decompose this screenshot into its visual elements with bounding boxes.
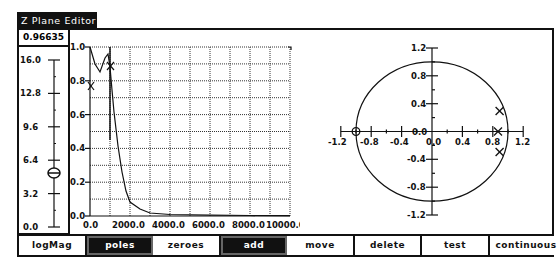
y-tick-label: 1.0 xyxy=(70,42,85,52)
z-x-tick-label: 0.4 xyxy=(455,137,470,147)
x-tick-label: 10000.0 xyxy=(266,220,300,230)
z-x-tick-label: 0.8 xyxy=(485,137,500,147)
y-tick-label: 0.2 xyxy=(70,177,85,187)
grid-lines xyxy=(90,47,290,216)
toolbar: logMag poles zeroes add move delete test… xyxy=(17,234,554,257)
y-tick-label: 0.8 xyxy=(70,76,85,86)
slider-tick-label: 6.4 xyxy=(23,155,38,165)
z-y-tick-label: 0.8 xyxy=(411,71,426,81)
z-plane-plot[interactable]: 1.2 0.8 0.4 0.0 -0.4 -0.8 -1.2 -1.2 -0.8… xyxy=(300,30,552,234)
slider-tick-label: 12.8 xyxy=(20,88,41,98)
magnitude-plot[interactable]: 1.0 0.8 0.6 0.4 0.2 0.0 0.0 2000.0 4000.… xyxy=(70,30,300,234)
z-y-tick-label: -1.2 xyxy=(407,210,426,220)
poles-button[interactable]: poles xyxy=(87,236,153,255)
window-title: Z Plane Editor xyxy=(17,12,97,29)
z-x-tick-label: -0.4 xyxy=(390,137,409,147)
z-x-tick-label: -0.8 xyxy=(360,137,379,147)
z-y-tick-label: 0.0 xyxy=(412,127,427,137)
pole-marker-icon[interactable] xyxy=(496,148,504,156)
slider-tick-label: 0.0 xyxy=(23,222,38,232)
y-tick-label: 0.4 xyxy=(70,143,85,153)
y-tick-label: 0.6 xyxy=(70,110,85,120)
gain-slider[interactable]: 16.0 12.8 9.6 6.4 3.2 0.0 xyxy=(19,47,68,233)
move-button[interactable]: move xyxy=(287,236,355,255)
zeroes-button[interactable]: zeroes xyxy=(153,236,221,255)
x-tick-label: 4000.0 xyxy=(152,220,185,230)
z-y-tick-label: -0.4 xyxy=(407,154,426,164)
x-tick-label: 0.0 xyxy=(83,220,98,230)
z-y-tick-label: 1.2 xyxy=(411,43,426,53)
add-button[interactable]: add xyxy=(221,236,287,255)
slider-tick-label: 9.6 xyxy=(23,122,38,132)
gain-slider-panel: 16.0 12.8 9.6 6.4 3.2 0.0 xyxy=(17,45,70,235)
z-x-tick-label: 1.2 xyxy=(515,137,530,147)
delete-button[interactable]: delete xyxy=(355,236,422,255)
slider-tick-label: 16.0 xyxy=(20,55,41,65)
x-tick-label: 8000.0 xyxy=(232,220,265,230)
z-y-tick-label: 0.4 xyxy=(411,99,426,109)
slider-tick-label: 3.2 xyxy=(23,189,38,199)
x-tick-label: 2000.0 xyxy=(112,220,145,230)
z-x-tick-label: 0.0 xyxy=(426,137,441,147)
slider-thumb[interactable] xyxy=(48,168,60,178)
logmag-button[interactable]: logMag xyxy=(19,236,87,255)
z-y-tick-label: -0.8 xyxy=(407,182,426,192)
continuous-button[interactable]: continuous xyxy=(490,236,558,255)
pole-marker-x xyxy=(88,82,94,90)
pole-marker-icon[interactable] xyxy=(496,107,504,115)
test-button[interactable]: test xyxy=(422,236,490,255)
x-tick-label: 6000.0 xyxy=(192,220,225,230)
z-x-tick-label: -1.2 xyxy=(328,137,347,147)
